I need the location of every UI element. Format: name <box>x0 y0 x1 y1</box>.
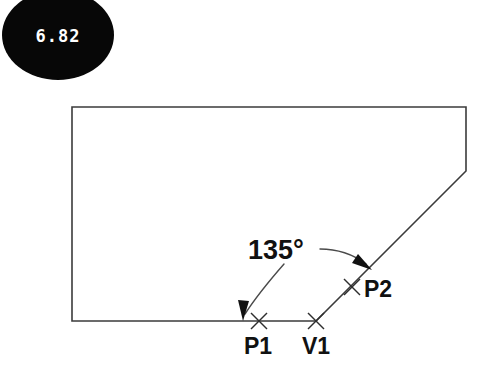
diagram-canvas: 135° P1 V1 P2 6.82 <box>0 0 493 376</box>
point-label-v1: V1 <box>302 333 330 359</box>
point-label-p1: P1 <box>244 333 272 359</box>
angle-dimension-label: 135° <box>248 235 304 265</box>
point-label-p2: P2 <box>364 276 392 302</box>
angle-leader-left <box>245 264 284 314</box>
polygon-outline <box>72 107 466 321</box>
value-badge-text: 6.82 <box>36 26 81 46</box>
technical-drawing: 135° P1 V1 P2 6.82 <box>0 0 493 376</box>
point-marker-p2 <box>344 279 360 295</box>
